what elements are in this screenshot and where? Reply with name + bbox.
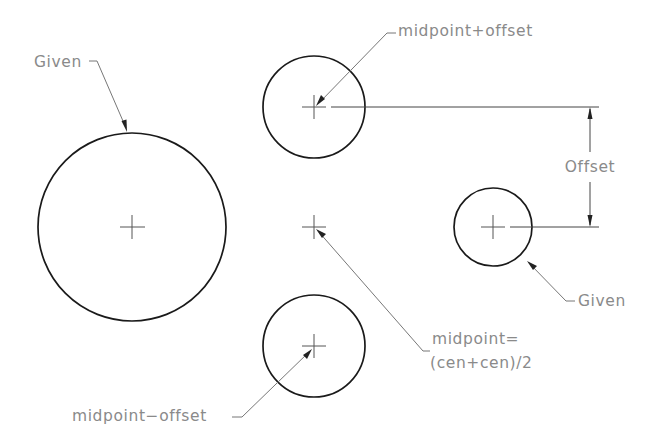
leader-given-right — [527, 261, 575, 301]
leader-arrow-icon — [316, 229, 326, 238]
center-mark-given-small — [481, 215, 505, 239]
midpoint-minus-offset-label: midpoint−offset — [72, 407, 207, 425]
center-mark-given-large — [120, 215, 145, 239]
leader-midpoint — [316, 229, 430, 351]
midpoint-plus-offset-label: midpoint+offset — [398, 22, 533, 40]
leader-arrow-icon — [316, 95, 325, 106]
leader-given-left — [89, 61, 127, 132]
leader-arrow-icon — [122, 120, 128, 133]
offset-dimension-label: Offset — [565, 158, 615, 176]
diagram-canvas: Offset Given midpoint+offset Given midpo… — [0, 0, 659, 444]
dimension-arrow-up-icon — [588, 107, 593, 119]
leader-arrow-icon — [527, 261, 537, 270]
given-right-label: Given — [578, 292, 626, 310]
midpoint-formula-line1: midpoint= — [432, 330, 519, 348]
leader-midpoint-plus-offset — [316, 33, 396, 106]
given-left-label: Given — [34, 53, 82, 71]
midpoint-formula-line2: (cen+cen)/2 — [430, 354, 533, 372]
leader-arrow-icon — [303, 349, 312, 359]
dimension-arrow-down-icon — [588, 215, 593, 227]
leader-midpoint-minus-offset — [232, 349, 312, 417]
